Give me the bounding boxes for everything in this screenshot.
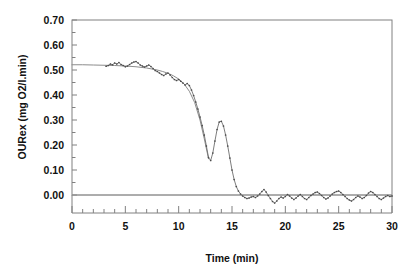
data-point bbox=[137, 62, 139, 64]
data-point bbox=[133, 61, 135, 63]
data-point bbox=[225, 134, 227, 136]
data-point bbox=[344, 196, 346, 198]
data-point bbox=[280, 196, 282, 198]
data-point bbox=[355, 197, 357, 199]
data-point bbox=[193, 95, 195, 97]
data-point bbox=[142, 65, 144, 67]
data-point bbox=[276, 200, 278, 202]
data-point bbox=[325, 198, 327, 200]
data-point bbox=[372, 192, 374, 194]
data-point bbox=[112, 64, 114, 66]
data-point bbox=[366, 195, 368, 197]
data-point bbox=[263, 189, 265, 191]
data-point bbox=[238, 190, 240, 192]
data-point bbox=[110, 63, 112, 65]
data-point bbox=[174, 79, 176, 81]
data-point bbox=[186, 83, 188, 85]
data-point bbox=[148, 64, 150, 66]
data-point bbox=[346, 198, 348, 200]
data-point bbox=[248, 197, 250, 199]
data-point bbox=[220, 120, 222, 122]
data-point bbox=[255, 197, 257, 199]
y-tick-label: 0.20 bbox=[44, 139, 65, 151]
data-point bbox=[244, 197, 246, 199]
data-point bbox=[233, 179, 235, 181]
data-point bbox=[122, 65, 124, 67]
data-point bbox=[201, 125, 203, 127]
data-point bbox=[150, 66, 152, 68]
data-point bbox=[323, 197, 325, 199]
data-point bbox=[329, 195, 331, 197]
data-point bbox=[163, 75, 165, 77]
data-point bbox=[368, 192, 370, 194]
data-point bbox=[176, 80, 178, 82]
data-point bbox=[336, 191, 338, 193]
data-point bbox=[161, 74, 163, 76]
chart-figure: 0.000.100.200.300.400.500.600.70 0510152… bbox=[0, 0, 408, 280]
data-point bbox=[302, 196, 304, 198]
data-point bbox=[195, 101, 197, 103]
data-point bbox=[159, 72, 161, 74]
y-tick-label: 0.30 bbox=[44, 114, 65, 126]
data-point bbox=[321, 195, 323, 197]
data-point bbox=[338, 190, 340, 192]
data-point bbox=[182, 82, 184, 84]
data-point bbox=[242, 195, 244, 197]
data-point bbox=[120, 64, 122, 66]
data-point bbox=[240, 193, 242, 195]
data-point bbox=[208, 157, 210, 159]
data-point bbox=[295, 197, 297, 199]
data-point bbox=[105, 65, 107, 67]
data-point bbox=[357, 195, 359, 197]
data-point bbox=[229, 157, 231, 159]
data-point bbox=[351, 200, 353, 202]
data-point bbox=[289, 195, 291, 197]
data-point bbox=[188, 85, 190, 87]
data-point bbox=[308, 197, 310, 199]
data-point bbox=[297, 195, 299, 197]
y-tick-label: 0.40 bbox=[44, 89, 65, 101]
y-tick-label: 0.50 bbox=[44, 64, 65, 76]
data-point bbox=[334, 192, 336, 194]
x-tick-label: 30 bbox=[386, 220, 398, 232]
data-point bbox=[374, 194, 376, 196]
data-point bbox=[107, 65, 109, 67]
data-point bbox=[376, 196, 378, 198]
data-point bbox=[135, 61, 137, 63]
data-point bbox=[380, 199, 382, 201]
data-point bbox=[312, 193, 314, 195]
data-point bbox=[203, 134, 205, 136]
y-tick-label: 0.70 bbox=[44, 14, 65, 26]
data-point bbox=[361, 198, 363, 200]
data-point bbox=[197, 108, 199, 110]
data-point bbox=[144, 66, 146, 68]
data-point bbox=[191, 89, 193, 91]
data-point bbox=[314, 192, 316, 194]
x-axis-label: Time (min) bbox=[206, 252, 259, 264]
data-point bbox=[304, 198, 306, 200]
data-point bbox=[340, 192, 342, 194]
data-point bbox=[152, 68, 154, 70]
data-point bbox=[216, 129, 218, 131]
data-point bbox=[154, 70, 156, 72]
data-point bbox=[235, 186, 237, 188]
data-point bbox=[282, 197, 284, 199]
data-point bbox=[252, 196, 254, 198]
data-point bbox=[363, 197, 365, 199]
data-point bbox=[129, 64, 131, 66]
y-tick-label: 0.10 bbox=[44, 164, 65, 176]
y-axis-label: OURex (mg O2/l.min) bbox=[16, 54, 28, 159]
data-point bbox=[293, 199, 295, 201]
data-point bbox=[118, 62, 120, 64]
data-point bbox=[284, 196, 286, 198]
data-point bbox=[378, 198, 380, 200]
data-point bbox=[246, 198, 248, 200]
data-point bbox=[270, 198, 272, 200]
x-tick-label: 10 bbox=[173, 220, 185, 232]
data-point bbox=[180, 80, 182, 82]
data-point bbox=[319, 193, 321, 195]
data-point bbox=[227, 145, 229, 147]
data-point bbox=[169, 74, 171, 76]
data-point bbox=[348, 199, 350, 201]
y-tick-label: 0.00 bbox=[44, 189, 65, 201]
